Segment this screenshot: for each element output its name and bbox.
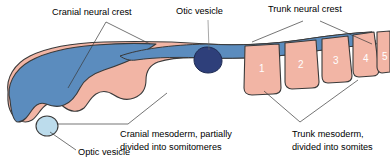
- otic-vesicle: [194, 47, 222, 73]
- label-trunk-neural-crest: Trunk neural crest: [268, 4, 342, 14]
- leader-cranial-neural-crest-b: [106, 22, 150, 44]
- label-otic-vesicle: Otic vesicle: [176, 6, 223, 16]
- label-trunk-mesoderm-line2: divided into somites: [292, 142, 373, 152]
- embryo-diagram: 1 2 3 4 5 Cranial neural crest Otic vesi…: [0, 0, 390, 166]
- leader-trunk-neural-crest-a: [252, 21, 303, 42]
- somite-number-2: 2: [298, 59, 304, 70]
- somite-number-5: 5: [382, 51, 388, 62]
- optic-vesicle: [36, 116, 58, 136]
- somite-number-3: 3: [333, 55, 339, 66]
- otic-vesicle-shape: [194, 47, 222, 73]
- optic-vesicle-shape: [36, 116, 58, 136]
- label-trunk-mesoderm-line1: Trunk mesoderm,: [292, 129, 364, 139]
- leader-optic-vesicle: [50, 132, 76, 150]
- leader-trunk-mesoderm-a: [264, 91, 300, 122]
- label-cranial-neural-crest: Cranial neural crest: [52, 7, 132, 17]
- somite-number-4: 4: [363, 53, 369, 64]
- label-cranial-mesoderm-line2: divided into somitomeres: [120, 142, 222, 152]
- somite-number-1: 1: [259, 63, 265, 74]
- label-cranial-mesoderm-line1: Cranial mesoderm, partially: [120, 129, 232, 139]
